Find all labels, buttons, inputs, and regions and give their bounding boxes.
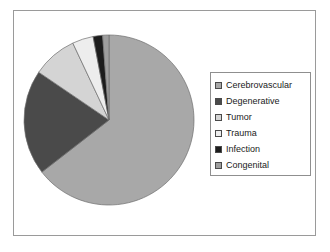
legend-item-label: Infection [226, 144, 260, 154]
legend-item-degenerative[interactable]: Degenerative [215, 93, 310, 109]
legend-item-tumor[interactable]: Tumor [215, 109, 310, 125]
pie-slice-group [24, 35, 194, 205]
legend-swatch-icon [215, 146, 222, 153]
legend-item-label: Degenerative [226, 96, 280, 106]
legend-item-cerebrovascular[interactable]: Cerebrovascular [215, 77, 310, 93]
chart-legend: Cerebrovascular Degenerative Tumor Traum… [210, 72, 311, 176]
pie-chart [22, 33, 196, 207]
legend-item-label: Cerebrovascular [226, 80, 292, 90]
legend-item-label: Trauma [226, 128, 257, 138]
legend-swatch-icon [215, 98, 222, 105]
chart-frame: Cerebrovascular Degenerative Tumor Traum… [13, 10, 316, 236]
legend-item-label: Tumor [226, 112, 252, 122]
legend-swatch-icon [215, 114, 222, 121]
legend-swatch-icon [215, 162, 222, 169]
legend-item-infection[interactable]: Infection [215, 141, 310, 157]
legend-item-label: Congenital [226, 160, 269, 170]
legend-swatch-icon [215, 130, 222, 137]
legend-swatch-icon [215, 82, 222, 89]
legend-item-trauma[interactable]: Trauma [215, 125, 310, 141]
plot-area: Cerebrovascular Degenerative Tumor Traum… [14, 11, 317, 237]
legend-item-congenital[interactable]: Congenital [215, 157, 310, 173]
